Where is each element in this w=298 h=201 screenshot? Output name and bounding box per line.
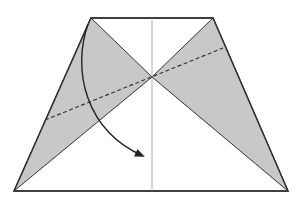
diagram-canvas bbox=[0, 0, 298, 201]
origami-diagram: origami-fold-step bbox=[0, 0, 298, 201]
